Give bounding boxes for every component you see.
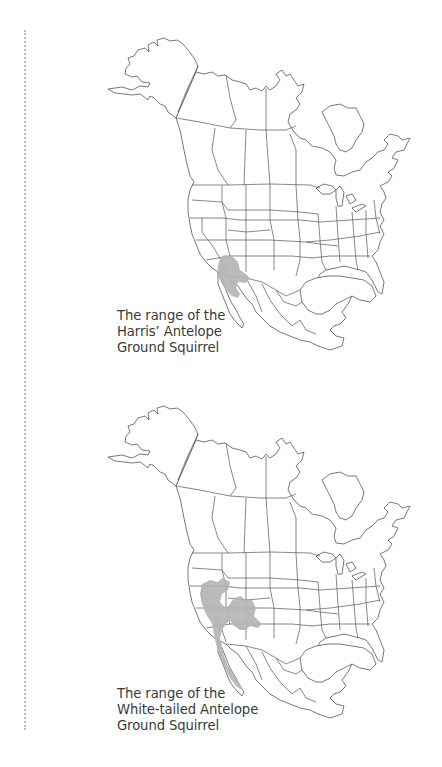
caption-line: White-tailed Antelope: [117, 702, 258, 718]
caption-line: Ground Squirrel: [117, 340, 225, 356]
caption-line: The range of the: [117, 686, 258, 702]
map-figure-white-tailed: The range of the White-tailed Antelope G…: [0, 368, 442, 758]
map-figure-harris: The range of the Harris’ Antelope Ground…: [0, 0, 442, 380]
caption-line: The range of the: [117, 308, 225, 324]
caption-harris: The range of the Harris’ Antelope Ground…: [117, 308, 225, 356]
caption-line: Ground Squirrel: [117, 718, 258, 734]
caption-white-tailed: The range of the White-tailed Antelope G…: [117, 686, 258, 734]
caption-line: Harris’ Antelope: [117, 324, 225, 340]
